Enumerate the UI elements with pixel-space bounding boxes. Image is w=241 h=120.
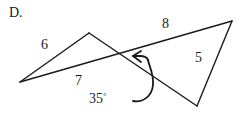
side-label-6: 6 bbox=[41, 38, 48, 52]
angle-value: 35 bbox=[89, 91, 103, 106]
side-label-5: 5 bbox=[195, 51, 202, 65]
angle-label-35: 35° bbox=[89, 92, 107, 106]
side-label-7: 7 bbox=[75, 74, 82, 88]
curved-arrow-icon bbox=[133, 51, 153, 101]
figure-drawing bbox=[0, 0, 241, 120]
segment-5 bbox=[197, 21, 232, 106]
side-label-8: 8 bbox=[162, 17, 169, 31]
part-label: D. bbox=[9, 6, 23, 20]
degree-symbol: ° bbox=[103, 91, 107, 101]
geometry-figure: D. 6 7 8 5 35° bbox=[0, 0, 241, 120]
